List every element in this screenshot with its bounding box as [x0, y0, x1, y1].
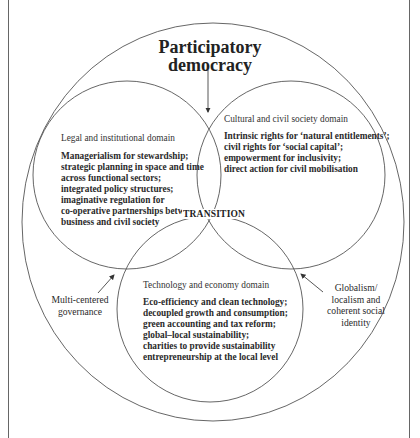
technology-line: green accounting and tax reform; — [143, 319, 288, 330]
globalism-label: Globalism/ localism and coherent social … — [318, 282, 394, 328]
technology-line: global–local sustainability; — [143, 330, 288, 341]
cultural-line: civil rights for ‘social capital’; — [224, 142, 390, 153]
governance-arrow — [98, 275, 114, 293]
cultural-domain-body: Intrinsic rights for ‘natural entitlemen… — [224, 131, 390, 175]
legal-line: integrated policy structures; — [61, 184, 204, 195]
legal-line: Managerialism for stewardship; — [61, 151, 204, 162]
globalism-label-line: localism and — [318, 294, 394, 306]
legal-line: strategic planning in space and time — [61, 162, 204, 173]
governance-label: Multi-centered governance — [42, 294, 118, 317]
diagram-title: Participatory democracy — [0, 38, 420, 74]
legal-line: imaginative regulation for — [61, 195, 204, 206]
globalism-label-line: Globalism/ — [318, 282, 394, 294]
cultural-domain-label: Cultural and civil society domain — [224, 114, 348, 125]
legal-line: across functional sectors; — [61, 173, 204, 184]
globalism-label-line: identity — [318, 317, 394, 329]
technology-line: Eco-efficiency and clean technology; — [143, 297, 288, 308]
cultural-line: direct action for civil mobilisation — [224, 164, 390, 175]
technology-line: charities to provide sustainability — [143, 341, 288, 352]
governance-label-line: governance — [42, 306, 118, 318]
governance-label-line: Multi-centered — [42, 294, 118, 306]
legal-domain-label: Legal and institutional domain — [61, 133, 175, 144]
technology-line: decoupled growth and consumption; — [143, 308, 288, 319]
technology-domain-label: Technology and economy domain — [143, 280, 269, 291]
transition-label: TRANSITION — [182, 209, 246, 219]
globalism-label-line: coherent social — [318, 305, 394, 317]
cultural-line: Intrinsic rights for ‘natural entitlemen… — [224, 131, 390, 142]
technology-line: entrepreneurship at the local level — [143, 352, 288, 363]
cultural-domain-circle — [197, 81, 385, 269]
title-line-1: Participatory — [0, 38, 420, 56]
technology-domain-body: Eco-efficiency and clean technology; dec… — [143, 297, 288, 363]
title-line-2: democracy — [0, 56, 420, 74]
cultural-line: empowerment for inclusivity; — [224, 153, 390, 164]
